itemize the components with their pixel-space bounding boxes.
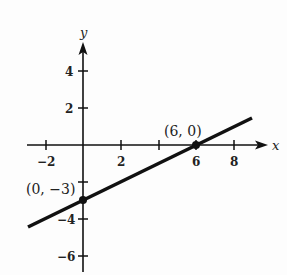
graph-line (28, 118, 252, 227)
y-tick-label: −6 (57, 250, 75, 264)
y-axis-label: y (79, 25, 88, 40)
point-x-intercept (192, 141, 200, 149)
x-axis (27, 141, 268, 150)
x-tick-label: 6 (192, 155, 200, 169)
x-tick-label: −2 (37, 155, 55, 169)
y-tick-label: 2 (65, 102, 73, 116)
y-tick-label: 4 (65, 65, 73, 79)
point-label-y-intercept: (0, −3) (26, 181, 75, 197)
y-axis (79, 42, 88, 272)
point-y-intercept (79, 196, 87, 204)
x-tick-label: 8 (230, 155, 238, 169)
point-label-x-intercept: (6, 0) (164, 123, 202, 139)
coordinate-graph: x y −2 2 6 8 4 2 −4 −6 (0, −3) (6, 0) (0, 0, 287, 275)
y-tick-label: −4 (57, 213, 75, 227)
x-axis-label: x (272, 138, 280, 153)
x-tick-label: 2 (117, 155, 125, 169)
